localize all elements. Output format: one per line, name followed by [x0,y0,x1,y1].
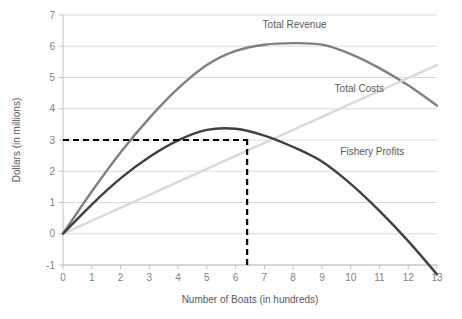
y-axis-title: Dollars (in millions) [11,98,22,182]
x-tick-label-7: 7 [262,272,268,283]
x-tick-label-10: 10 [345,272,357,283]
x-tick-label-2: 2 [118,272,124,283]
series-line-total-revenue [63,43,437,234]
gridlines [63,15,437,265]
x-tick-label-3: 3 [147,272,153,283]
x-tick-label-5: 5 [204,272,210,283]
x-tick-label-9: 9 [319,272,325,283]
series-annotations: Total RevenueTotal CostsFishery Profits [263,19,405,158]
total-revenue-label: Total Revenue [263,19,327,30]
x-tick-label-6: 6 [233,272,239,283]
x-tick-label-13: 13 [431,272,443,283]
x-tick-label-12: 12 [403,272,415,283]
x-tick-marks [63,265,437,269]
x-tick-label-1: 1 [89,272,95,283]
y-tick-label-1: 1 [49,197,55,208]
fishery-economics-chart: 012345678910111213 -101234567 Total Reve… [0,0,462,319]
y-tick-label-5: 5 [49,72,55,83]
x-tick-label-4: 4 [175,272,181,283]
fishery-profits-label: Fishery Profits [340,146,404,157]
y-tick-label-3: 3 [49,135,55,146]
y-tick-label-7: 7 [49,10,55,21]
y-tick-label-4: 4 [49,103,55,114]
y-tick-label--1: -1 [46,260,55,271]
x-tick-label-8: 8 [290,272,296,283]
y-tick-label-0: 0 [49,228,55,239]
y-tick-marks [59,15,63,265]
x-tick-label-11: 11 [374,272,385,283]
y-tick-labels: -101234567 [46,10,55,271]
reference-lines [63,138,247,265]
total-costs-label: Total Costs [335,83,384,94]
x-tick-labels: 012345678910111213 [60,272,443,283]
chart-plot-area: 012345678910111213 -101234567 Total Reve… [0,0,462,319]
x-tick-label-0: 0 [60,272,66,283]
x-axis-title: Number of Boats (in hundreds) [182,294,319,305]
y-tick-label-2: 2 [49,166,55,177]
y-tick-label-6: 6 [49,41,55,52]
